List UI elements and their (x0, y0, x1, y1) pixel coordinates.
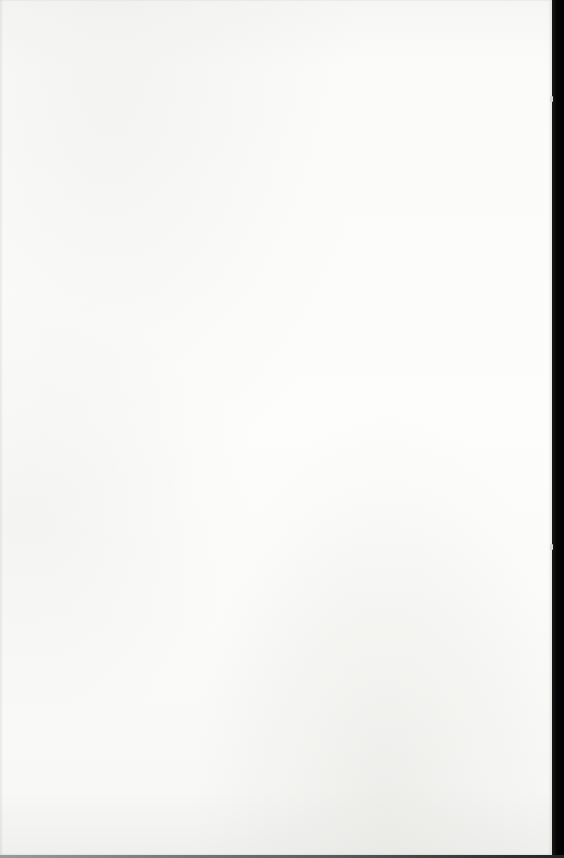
paper-edge-nick (550, 544, 553, 550)
paper-edge-nick (550, 96, 553, 102)
blank-page (0, 0, 552, 855)
scanned-document (0, 0, 564, 858)
scan-edge-right (552, 0, 564, 858)
